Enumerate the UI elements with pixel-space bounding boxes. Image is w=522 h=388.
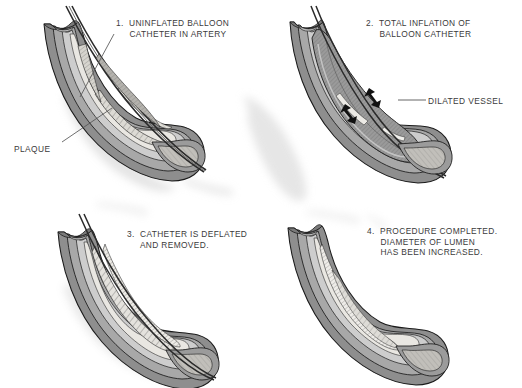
panel-2-caption: 2. TOTAL INFLATION OF BALLOON CATHETER [366,18,471,39]
callout-label-dilated-vessel: DILATED VESSEL [428,96,503,106]
angioplasty-illustration [0,0,522,388]
panel-1-caption: 1. UNINFLATED BALLOON CATHETER IN ARTERY [116,18,229,39]
panel-4-caption: 4. PROCEDURE COMPLETED. DIAMETER OF LUME… [367,226,497,258]
panel-3-caption: 3. CATHETER IS DEFLATED AND REMOVED. [127,229,247,250]
callout-label-plaque: PLAQUE [14,144,50,154]
panel-2-shadow [243,96,306,201]
figure-canvas: 1. UNINFLATED BALLOON CATHETER IN ARTERY… [0,0,522,388]
